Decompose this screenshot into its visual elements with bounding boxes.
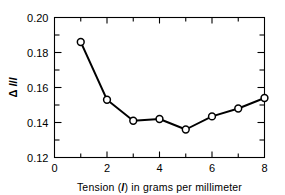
y-tick-label-0.16: 0.16 <box>27 82 48 94</box>
chart-figure: 024680.120.140.160.180.20Tension (l) in … <box>0 0 285 195</box>
x-tick-label-2: 2 <box>104 162 110 174</box>
y-tick-label-0.14: 0.14 <box>27 117 48 129</box>
data-point-6[interactable] <box>209 113 216 120</box>
y-axis-label: Δ l/l <box>7 76 19 97</box>
x-axis-caption-suffix: ) in grams per millimeter <box>124 181 242 193</box>
x-tick-label-6: 6 <box>209 162 215 174</box>
line-chart-plot: 024680.120.140.160.180.20Tension (l) in … <box>0 0 285 195</box>
x-axis-caption: Tension (l) in grams per millimeter <box>77 181 242 193</box>
data-point-4[interactable] <box>156 116 163 123</box>
series-line <box>81 42 265 130</box>
x-tick-label-8: 8 <box>261 162 267 174</box>
x-tick-label-4: 4 <box>156 162 162 174</box>
data-point-1[interactable] <box>77 39 84 46</box>
data-point-5[interactable] <box>182 126 189 133</box>
y-tick-label-0.18: 0.18 <box>27 47 48 59</box>
data-point-3[interactable] <box>130 117 137 124</box>
y-axis-label-symbol2: l <box>7 76 19 80</box>
plot-frame <box>55 18 265 158</box>
data-point-8[interactable] <box>261 95 268 102</box>
data-point-7[interactable] <box>235 105 242 112</box>
y-axis-label-delta: Δ <box>7 87 19 98</box>
x-tick-label-0: 0 <box>51 162 57 174</box>
y-tick-label-0.12: 0.12 <box>27 152 48 164</box>
data-point-2[interactable] <box>104 96 111 103</box>
x-axis-caption-prefix: Tension ( <box>77 181 122 193</box>
y-tick-label-0.20: 0.20 <box>27 12 48 24</box>
